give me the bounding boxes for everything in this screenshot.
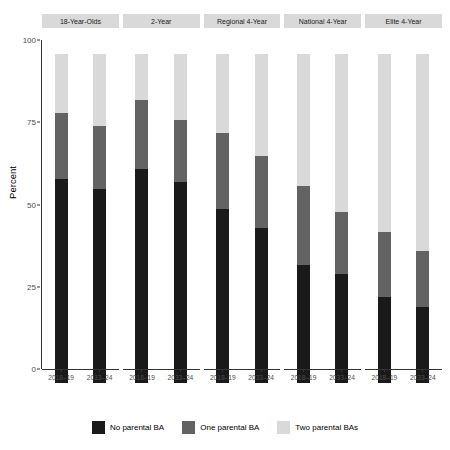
facet-panel: 18-Year-Olds bbox=[42, 14, 119, 389]
x-axis-tick-mark bbox=[141, 369, 142, 372]
bar-segment-two-parental-bas[interactable] bbox=[216, 54, 229, 133]
x-axis-tick: 2033–24 bbox=[174, 369, 187, 393]
bar-segment-one-parental-ba[interactable] bbox=[174, 120, 187, 183]
bar-segment-two-parental-bas[interactable] bbox=[378, 54, 391, 232]
bar-group bbox=[204, 54, 281, 383]
x-axis-ticks: 2018–192033–24 bbox=[365, 369, 442, 393]
x-axis-tick-mark bbox=[61, 369, 62, 372]
y-axis-tick-mark bbox=[37, 204, 40, 205]
x-axis-tick-mark bbox=[303, 369, 304, 372]
x-axis-tick: 2018–19 bbox=[55, 369, 68, 393]
facet-strip-label: Elite 4-Year bbox=[365, 14, 442, 28]
x-axis-panel: 2018–192033–24 bbox=[284, 369, 361, 393]
bar-group bbox=[284, 54, 361, 383]
x-axis-panel: 2018–192033–24 bbox=[204, 369, 281, 393]
legend-item[interactable]: Two parental BAs bbox=[277, 421, 358, 434]
bar-segment-one-parental-ba[interactable] bbox=[378, 232, 391, 298]
legend-label: No parental BA bbox=[110, 423, 164, 432]
legend-label: One parental BA bbox=[200, 423, 259, 432]
bar-segment-one-parental-ba[interactable] bbox=[135, 100, 148, 169]
bar-segment-no-parental-ba[interactable] bbox=[335, 274, 348, 383]
legend-label: Two parental BAs bbox=[295, 423, 358, 432]
x-axis-tick-label: 2018–19 bbox=[129, 374, 155, 381]
bar-segment-two-parental-bas[interactable] bbox=[55, 54, 68, 113]
x-axis-tick-mark bbox=[384, 369, 385, 372]
legend-item[interactable]: No parental BA bbox=[92, 421, 164, 434]
stacked-bar[interactable] bbox=[216, 54, 229, 383]
facet-strip-label: Regional 4-Year bbox=[204, 14, 281, 28]
bar-segment-two-parental-bas[interactable] bbox=[335, 54, 348, 212]
bar-segment-no-parental-ba[interactable] bbox=[174, 182, 187, 383]
facet-plot-area bbox=[42, 28, 119, 389]
facet-panel: Elite 4-Year bbox=[365, 14, 442, 389]
stacked-bar[interactable] bbox=[335, 54, 348, 383]
bar-segment-one-parental-ba[interactable] bbox=[216, 133, 229, 209]
stacked-bar-chart: Percent 0255075100 18-Year-Olds2-YearReg… bbox=[0, 0, 450, 450]
x-axis-tick-mark bbox=[261, 369, 262, 372]
x-axis: 2018–192033–242018–192033–242018–192033–… bbox=[42, 369, 442, 393]
bar-segment-no-parental-ba[interactable] bbox=[55, 179, 68, 383]
facet-plot-area bbox=[204, 28, 281, 389]
stacked-bar[interactable] bbox=[416, 54, 429, 383]
bar-segment-no-parental-ba[interactable] bbox=[297, 265, 310, 383]
bar-segment-one-parental-ba[interactable] bbox=[297, 186, 310, 265]
bar-segment-one-parental-ba[interactable] bbox=[55, 113, 68, 179]
legend-swatch bbox=[277, 421, 290, 434]
facet-plot-area bbox=[365, 28, 442, 389]
x-axis-panel: 2018–192033–24 bbox=[123, 369, 200, 393]
x-axis-tick-label: 2033–24 bbox=[329, 374, 355, 381]
x-axis-tick: 2018–19 bbox=[378, 369, 391, 393]
x-axis-tick: 2018–19 bbox=[216, 369, 229, 393]
x-axis-panel: 2018–192033–24 bbox=[365, 369, 442, 393]
x-axis-tick-label: 2033–24 bbox=[410, 374, 436, 381]
bar-segment-one-parental-ba[interactable] bbox=[416, 251, 429, 307]
x-axis-ticks: 2018–192033–24 bbox=[123, 369, 200, 393]
bar-group bbox=[123, 54, 200, 383]
facet-plot-area bbox=[123, 28, 200, 389]
bar-segment-two-parental-bas[interactable] bbox=[174, 54, 187, 120]
bar-segment-no-parental-ba[interactable] bbox=[216, 209, 229, 383]
x-axis-tick-label: 2018–19 bbox=[291, 374, 317, 381]
bar-segment-two-parental-bas[interactable] bbox=[93, 54, 106, 126]
bar-segment-no-parental-ba[interactable] bbox=[135, 169, 148, 383]
legend-swatch bbox=[92, 421, 105, 434]
y-axis-tick-label: 25 bbox=[27, 282, 36, 291]
y-axis-tick-mark bbox=[37, 369, 40, 370]
legend-item[interactable]: One parental BA bbox=[182, 421, 259, 434]
stacked-bar[interactable] bbox=[174, 54, 187, 383]
stacked-bar[interactable] bbox=[55, 54, 68, 383]
bar-segment-no-parental-ba[interactable] bbox=[93, 189, 106, 383]
y-axis-tick-label: 0 bbox=[32, 365, 36, 374]
bar-segment-one-parental-ba[interactable] bbox=[93, 126, 106, 189]
y-axis: 0255075100 bbox=[0, 0, 42, 450]
y-axis-tick-label: 50 bbox=[27, 200, 36, 209]
bar-segment-two-parental-bas[interactable] bbox=[255, 54, 268, 156]
stacked-bar[interactable] bbox=[135, 54, 148, 383]
stacked-bar[interactable] bbox=[255, 54, 268, 383]
bar-segment-no-parental-ba[interactable] bbox=[255, 228, 268, 383]
bar-group bbox=[365, 54, 442, 383]
y-axis-tick-label: 100 bbox=[23, 36, 36, 45]
legend-swatch bbox=[182, 421, 195, 434]
bar-segment-two-parental-bas[interactable] bbox=[135, 54, 148, 100]
x-axis-tick-label: 2033–24 bbox=[248, 374, 274, 381]
x-axis-tick: 2018–19 bbox=[135, 369, 148, 393]
stacked-bar[interactable] bbox=[297, 54, 310, 383]
bar-segment-two-parental-bas[interactable] bbox=[297, 54, 310, 186]
stacked-bar[interactable] bbox=[378, 54, 391, 383]
y-axis-tick-label: 75 bbox=[27, 118, 36, 127]
x-axis-tick: 2033–24 bbox=[93, 369, 106, 393]
facet-panels: 18-Year-Olds2-YearRegional 4-YearNationa… bbox=[42, 14, 442, 389]
bar-segment-two-parental-bas[interactable] bbox=[416, 54, 429, 251]
bar-segment-one-parental-ba[interactable] bbox=[255, 156, 268, 228]
facet-plot-area bbox=[284, 28, 361, 389]
x-axis-tick-label: 2018–19 bbox=[372, 374, 398, 381]
y-axis-tick-mark bbox=[37, 286, 40, 287]
bar-segment-one-parental-ba[interactable] bbox=[335, 212, 348, 275]
x-axis-panel: 2018–192033–24 bbox=[42, 369, 119, 393]
x-axis-tick: 2018–19 bbox=[297, 369, 310, 393]
y-axis-tick-mark bbox=[37, 122, 40, 123]
x-axis-tick: 2033–24 bbox=[335, 369, 348, 393]
x-axis-tick-mark bbox=[422, 369, 423, 372]
stacked-bar[interactable] bbox=[93, 54, 106, 383]
